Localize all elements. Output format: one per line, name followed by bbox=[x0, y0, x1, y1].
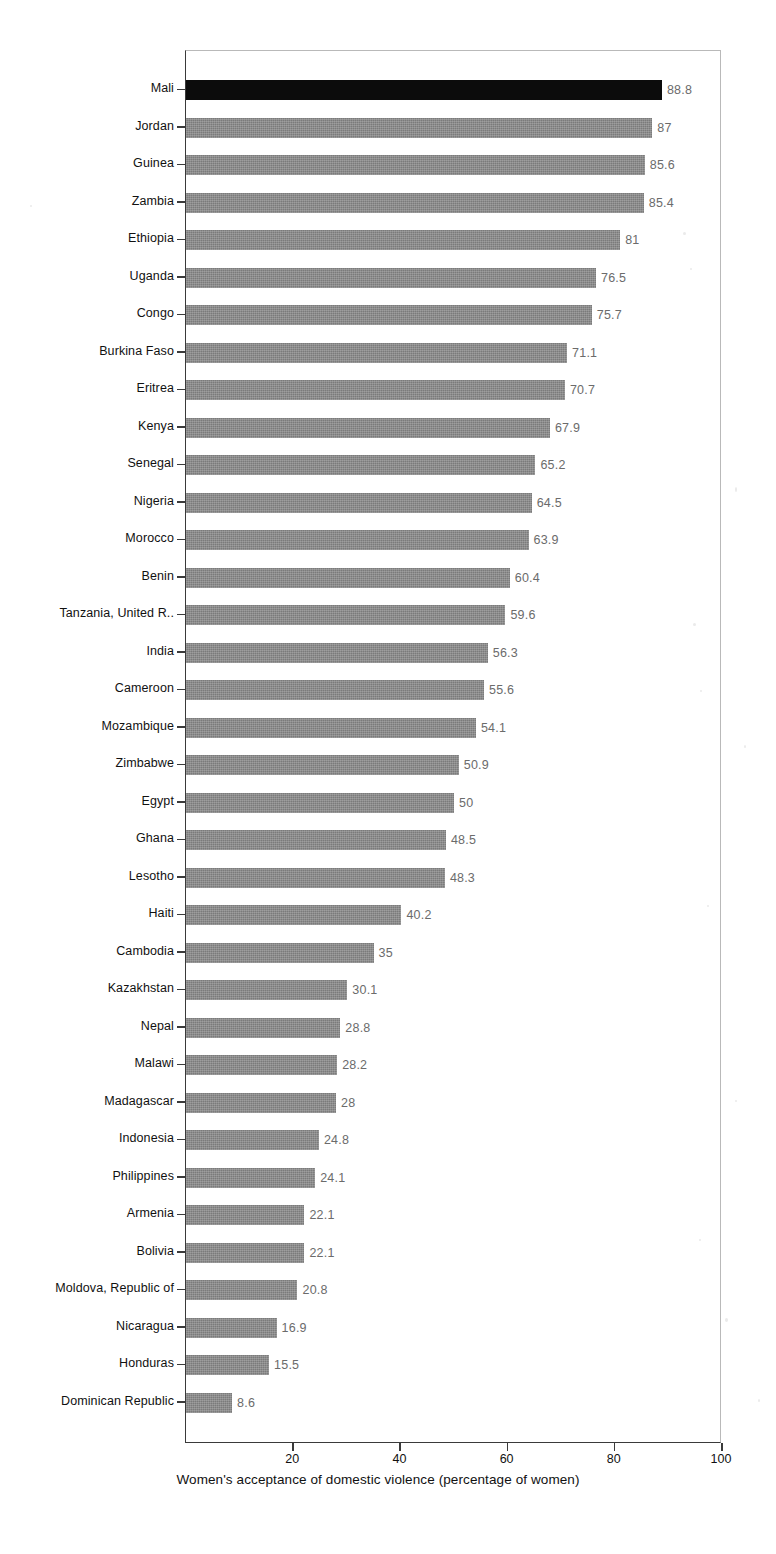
bar-track: 56.3 bbox=[186, 643, 720, 663]
bar[interactable] bbox=[186, 1130, 319, 1150]
bar-row: 50.9 bbox=[186, 746, 720, 784]
plot-area: 88.88785.685.48176.575.771.170.767.965.2… bbox=[185, 50, 721, 1443]
y-axis-category-label: Malawi bbox=[0, 1045, 178, 1083]
y-axis-category-label: Ghana bbox=[0, 820, 178, 858]
bar[interactable] bbox=[186, 1205, 304, 1225]
bar[interactable] bbox=[186, 343, 567, 363]
bar[interactable] bbox=[186, 830, 446, 850]
bar[interactable] bbox=[186, 80, 662, 100]
bar[interactable] bbox=[186, 905, 401, 925]
bar-value-label: 65.2 bbox=[540, 458, 565, 472]
x-axis-title-text: Women's acceptance of domestic violence … bbox=[176, 1472, 579, 1487]
y-axis-tick bbox=[177, 239, 185, 241]
bar-value-label: 87 bbox=[657, 121, 671, 135]
y-axis-category-label: India bbox=[0, 633, 178, 671]
bar[interactable] bbox=[186, 793, 454, 813]
y-axis-tick bbox=[177, 164, 185, 166]
bar[interactable] bbox=[186, 943, 374, 963]
bar[interactable] bbox=[186, 1243, 304, 1263]
x-axis-tick bbox=[721, 1443, 723, 1451]
bar[interactable] bbox=[186, 268, 596, 288]
bar-track: 40.2 bbox=[186, 905, 720, 925]
bar[interactable] bbox=[186, 1018, 340, 1038]
bar-track: 50.9 bbox=[186, 755, 720, 775]
bar-track: 15.5 bbox=[186, 1355, 720, 1375]
y-axis-category-label: Congo bbox=[0, 295, 178, 333]
bar[interactable] bbox=[186, 380, 565, 400]
bar[interactable] bbox=[186, 718, 476, 738]
bar[interactable] bbox=[186, 1093, 336, 1113]
scan-speckle bbox=[690, 268, 692, 270]
bar-track: 48.3 bbox=[186, 868, 720, 888]
bar[interactable] bbox=[186, 193, 644, 213]
bar-track: 76.5 bbox=[186, 268, 720, 288]
bar[interactable] bbox=[186, 568, 510, 588]
bar-row: 71.1 bbox=[186, 334, 720, 372]
bar-value-label: 85.6 bbox=[650, 158, 675, 172]
bar-value-label: 50 bbox=[459, 796, 473, 810]
bar-row: 30.1 bbox=[186, 971, 720, 1009]
bar[interactable] bbox=[186, 305, 592, 325]
scan-speckle bbox=[725, 1318, 728, 1322]
bar-value-label: 76.5 bbox=[601, 271, 626, 285]
y-axis-category-labels: MaliJordanGuineaZambiaEthiopiaUgandaCong… bbox=[0, 50, 178, 1443]
bar[interactable] bbox=[186, 155, 645, 175]
y-axis-tick bbox=[177, 1251, 185, 1253]
bar-track: 88.8 bbox=[186, 80, 720, 100]
x-axis-ticks bbox=[185, 1443, 721, 1451]
bar[interactable] bbox=[186, 1355, 269, 1375]
y-axis-tick bbox=[177, 876, 185, 878]
bar-track: 48.5 bbox=[186, 830, 720, 850]
bar-value-label: 24.1 bbox=[320, 1171, 345, 1185]
bar-track: 20.8 bbox=[186, 1280, 720, 1300]
y-axis-tick bbox=[177, 1176, 185, 1178]
y-axis-category-label: Jordan bbox=[0, 108, 178, 146]
bar[interactable] bbox=[186, 980, 347, 1000]
bar[interactable] bbox=[186, 455, 535, 475]
bar[interactable] bbox=[186, 230, 620, 250]
y-axis-tick bbox=[177, 1139, 185, 1141]
bar[interactable] bbox=[186, 1318, 277, 1338]
bar[interactable] bbox=[186, 493, 532, 513]
bar-track: 81 bbox=[186, 230, 720, 250]
y-axis-category-label: Nigeria bbox=[0, 483, 178, 521]
y-axis-tick bbox=[177, 201, 185, 203]
y-axis-tick bbox=[177, 689, 185, 691]
bar[interactable] bbox=[186, 530, 529, 550]
scan-speckle bbox=[693, 623, 696, 626]
bar-row: 60.4 bbox=[186, 559, 720, 597]
x-axis-tick-label: 100 bbox=[711, 1452, 732, 1466]
bar-value-label: 30.1 bbox=[352, 983, 377, 997]
bar[interactable] bbox=[186, 755, 459, 775]
bar-track: 28 bbox=[186, 1093, 720, 1113]
x-axis-tick bbox=[399, 1443, 401, 1451]
scan-speckle bbox=[744, 745, 746, 748]
bar[interactable] bbox=[186, 1168, 315, 1188]
bar[interactable] bbox=[186, 418, 550, 438]
bar-row: 76.5 bbox=[186, 259, 720, 297]
bar-track: 67.9 bbox=[186, 418, 720, 438]
y-axis-category-label: Tanzania, United R.. bbox=[0, 595, 178, 633]
bar[interactable] bbox=[186, 868, 445, 888]
bar-value-label: 75.7 bbox=[597, 308, 622, 322]
x-axis-tick-label: 40 bbox=[392, 1452, 406, 1466]
y-axis-tick bbox=[177, 389, 185, 391]
y-axis-tick bbox=[177, 1326, 185, 1328]
bar-row: 40.2 bbox=[186, 896, 720, 934]
scan-speckle bbox=[683, 232, 686, 235]
bar[interactable] bbox=[186, 1280, 297, 1300]
bar-value-label: 67.9 bbox=[555, 421, 580, 435]
bar[interactable] bbox=[186, 680, 484, 700]
bar[interactable] bbox=[186, 1055, 337, 1075]
y-axis-category-label: Honduras bbox=[0, 1345, 178, 1383]
scan-speckle bbox=[700, 690, 702, 692]
y-axis-tick bbox=[177, 614, 185, 616]
bar-track: 75.7 bbox=[186, 305, 720, 325]
bar[interactable] bbox=[186, 605, 505, 625]
bar-row: 8.6 bbox=[186, 1384, 720, 1422]
bar[interactable] bbox=[186, 118, 652, 138]
y-axis-category-label: Egypt bbox=[0, 783, 178, 821]
bar[interactable] bbox=[186, 643, 488, 663]
y-axis-category-label: Ethiopia bbox=[0, 220, 178, 258]
bar[interactable] bbox=[186, 1393, 232, 1413]
